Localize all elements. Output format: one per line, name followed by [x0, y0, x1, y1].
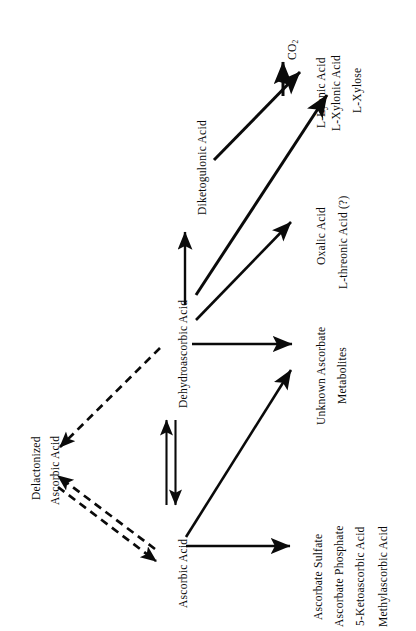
node-label-co2: CO2 [286, 39, 298, 60]
node-label-l-threonic-acid: L-threonic Acid (?) [337, 195, 349, 289]
node-label-l-xylonic-acid: L-Xylonic Acid [330, 55, 342, 131]
node-label-unknown-ascorbate: Unknown Ascorbate [315, 327, 327, 425]
node-label-metabolites: Metabolites [336, 347, 348, 404]
edge-ascorbic-to-delactonized [58, 476, 156, 561]
node-label-l-xylose: L-Xylose [351, 68, 363, 113]
edge-dehydroascorbic-to-delactonized [60, 348, 160, 447]
edge-diketogulonic-to-l-lyonic-acid [214, 72, 300, 160]
node-label-diketogulonic-acid: Diketogulonic Acid [196, 120, 208, 215]
node-label-dehydroascorbic-acid: Dehydroascorbic Acid [177, 300, 189, 408]
pathway-diagram-figure: Delactonized Ascorbic Acid (dashed diago… [0, 0, 416, 631]
node-label-ascorbate-phosphate: Ascorbate Phosphate [333, 525, 345, 627]
edge-ascorbic-to-unknown-metabolites [186, 370, 291, 537]
node-label-l-lyonic-acid: L-Lyonic Acid [315, 57, 327, 128]
node-label-methylascorbic-acid: Methylascorbic Acid [377, 526, 389, 627]
node-label-ascorbic-acid: Ascorbic Acid [177, 539, 189, 608]
node-label-oxalic-acid: Oxalic Acid [315, 207, 327, 265]
edge-ascorbic-to-dehydroascorbic [167, 420, 176, 505]
node-label-delactonized: Delactonized [30, 436, 42, 500]
node-label-delactonized-ascorbic-acid: Ascorbic Acid [49, 436, 61, 505]
node-label-ascorbate-sulfate: Ascorbate Sulfate [312, 534, 324, 620]
node-label-5-ketoascorbic-acid: 5-Ketoascorbic Acid [354, 526, 366, 626]
edge-dehydroascorbic-to-l-xylose [196, 95, 327, 295]
